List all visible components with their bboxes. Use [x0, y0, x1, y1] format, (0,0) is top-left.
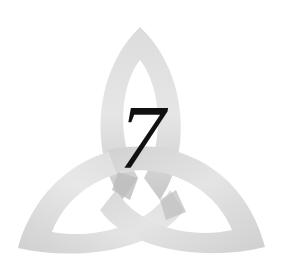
numeral-seven: 7	[112, 92, 172, 182]
image-canvas: 7	[0, 0, 290, 275]
